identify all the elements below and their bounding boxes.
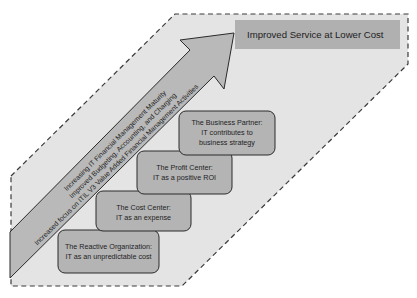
stage-title: The Cost Center: [116,203,171,212]
stage-description: IT contributes to [201,128,252,137]
maturity-diagram: Improved Service at Lower Cost Increasin… [0,0,417,298]
stage-title: The Reactive Organization: [65,242,152,251]
stage-business-partner: The Business Partner: IT contributes to … [179,111,275,155]
stage-description: IT as an unpredictable cost [65,252,151,261]
stage-description: business strategy [199,138,255,147]
stage-cost-center: The Cost Center: IT as an expense [96,191,191,231]
stage-description: IT as an expense [116,213,171,222]
stage-profit-center: The Profit Center: IT as a positive ROI [137,151,232,194]
stage-title: The Profit Center: [156,163,213,172]
stage-description: IT as a positive ROI [153,173,216,182]
stage-reactive: The Reactive Organization: IT as an unpr… [58,230,159,273]
stage-title: The Business Partner: [191,118,262,127]
goal-label: Improved Service at Lower Cost [247,29,384,40]
